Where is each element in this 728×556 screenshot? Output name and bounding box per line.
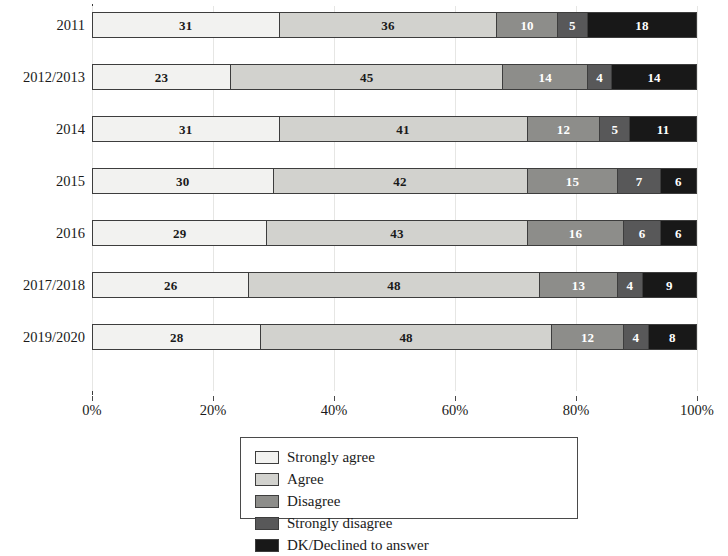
bar-segment: 41 — [280, 116, 528, 142]
x-axis-ticks: 0%20%40%60%80%100% — [92, 396, 697, 420]
legend-swatch-icon — [255, 473, 279, 486]
gridline — [697, 6, 698, 391]
bar-row: 234514414 — [92, 64, 697, 90]
bar-segment: 30 — [92, 168, 274, 194]
bar-row: 26481349 — [92, 272, 697, 298]
bar-segment: 4 — [624, 324, 648, 350]
bar-segment: 14 — [612, 64, 697, 90]
bar-segment: 28 — [92, 324, 261, 350]
x-axis-tick-label: 60% — [442, 402, 469, 419]
bar-segment: 7 — [618, 168, 660, 194]
y-axis-labels: 20112012/20132014201520162017/20182019/2… — [0, 6, 85, 391]
bar-segment: 6 — [661, 220, 697, 246]
bar-row: 29431666 — [92, 220, 697, 246]
bar-segment: 9 — [643, 272, 697, 298]
legend-items: Strongly agreeAgreeDisagreeStrongly disa… — [255, 446, 567, 556]
bar-segment: 18 — [588, 12, 697, 38]
bar-rows: 3136105182345144143141125113042157629431… — [92, 6, 697, 391]
legend-swatch-icon — [255, 517, 279, 530]
bar-row: 28481248 — [92, 324, 697, 350]
bar-segment: 36 — [280, 12, 498, 38]
bar-segment: 16 — [528, 220, 625, 246]
legend-label: Disagree — [287, 493, 340, 510]
bar-segment: 31 — [92, 12, 280, 38]
legend-item[interactable]: Disagree — [255, 490, 423, 512]
x-axis-tick-label: 0% — [82, 402, 101, 419]
bar-segment: 12 — [528, 116, 601, 142]
bar-segment: 13 — [540, 272, 619, 298]
bar-segment: 48 — [249, 272, 539, 298]
y-axis-label: 2017/2018 — [0, 272, 85, 298]
legend-label: DK/Declined to answer — [287, 537, 429, 554]
y-axis-label: 2011 — [0, 12, 85, 38]
legend-label: Strongly disagree — [287, 515, 392, 532]
bar-segment: 29 — [92, 220, 267, 246]
x-axis-tick-mark — [576, 396, 577, 401]
bar-segment: 15 — [528, 168, 619, 194]
x-axis-tick-label: 40% — [321, 402, 348, 419]
legend: Strongly agreeAgreeDisagreeStrongly disa… — [240, 437, 578, 519]
bar-segment: 45 — [231, 64, 503, 90]
y-axis-label: 2012/2013 — [0, 64, 85, 90]
bar-segment: 31 — [92, 116, 280, 142]
x-axis-tick-mark — [92, 396, 93, 401]
legend-item[interactable]: Strongly disagree — [255, 512, 405, 534]
bar-segment: 5 — [558, 12, 588, 38]
bar-segment: 8 — [649, 324, 697, 350]
bar-segment: 12 — [552, 324, 625, 350]
bar-row: 314112511 — [92, 116, 697, 142]
bar-segment: 14 — [503, 64, 588, 90]
x-axis-tick-label: 100% — [680, 402, 714, 419]
y-axis-label: 2015 — [0, 168, 85, 194]
legend-label: Strongly agree — [287, 449, 375, 466]
x-axis-tick-mark — [697, 396, 698, 401]
legend-swatch-icon — [255, 539, 279, 552]
x-axis-tick-mark — [455, 396, 456, 401]
plot-area: 3136105182345144143141125113042157629431… — [92, 6, 697, 391]
legend-swatch-icon — [255, 495, 279, 508]
y-axis-label: 2016 — [0, 220, 85, 246]
bar-segment: 4 — [618, 272, 642, 298]
bar-segment: 42 — [274, 168, 528, 194]
bar-row: 313610518 — [92, 12, 697, 38]
bar-segment: 23 — [92, 64, 231, 90]
x-axis-tick-mark — [213, 396, 214, 401]
legend-swatch-icon — [255, 451, 279, 464]
bar-row: 30421576 — [92, 168, 697, 194]
bar-segment: 48 — [261, 324, 551, 350]
bar-segment: 10 — [497, 12, 558, 38]
bar-segment: 6 — [624, 220, 660, 246]
bar-segment: 5 — [600, 116, 630, 142]
bar-segment: 43 — [267, 220, 527, 246]
x-axis-tick-label: 80% — [563, 402, 590, 419]
bar-segment: 4 — [588, 64, 612, 90]
x-axis-tick-mark — [334, 396, 335, 401]
legend-item[interactable]: Agree — [255, 468, 405, 490]
bar-segment: 26 — [92, 272, 249, 298]
bar-segment: 6 — [661, 168, 697, 194]
legend-item[interactable]: Strongly agree — [255, 446, 423, 468]
y-axis-label: 2019/2020 — [0, 324, 85, 350]
y-axis-label: 2014 — [0, 116, 85, 142]
bar-segment: 11 — [630, 116, 697, 142]
legend-item[interactable]: DK/Declined to answer — [255, 534, 567, 556]
x-axis-tick-label: 20% — [200, 402, 227, 419]
legend-label: Agree — [287, 471, 324, 488]
